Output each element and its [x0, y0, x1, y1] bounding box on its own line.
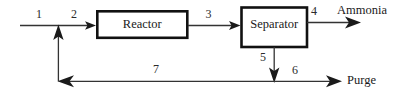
unit-separator[interactable]: Separator: [242, 8, 308, 48]
stream-1-number: 1: [36, 7, 42, 21]
stream-6-number: 6: [292, 63, 298, 77]
stream-7-number: 7: [153, 62, 159, 76]
stream-3-number: 3: [206, 7, 212, 21]
stream-3-path: [188, 21, 241, 30]
stream-4-number: 4: [311, 4, 317, 18]
stream-5-path: [269, 47, 279, 83]
stream-2-number: 2: [71, 7, 77, 21]
stream-2-path: [58, 21, 96, 30]
process-flow-diagram: Reactor Separator: [0, 0, 413, 97]
unit-reactor[interactable]: Reactor: [97, 11, 187, 38]
stream-4-path: [307, 17, 361, 29]
separator-label: Separator: [250, 17, 299, 31]
reactor-label: Reactor: [123, 17, 163, 31]
ammonia-output-label: Ammonia: [337, 3, 387, 17]
purge-output-label: Purge: [347, 73, 376, 87]
stream-6-path: [274, 75, 342, 87]
stream-5-number: 5: [260, 50, 266, 64]
flow-diagram-canvas: Reactor Separator: [0, 0, 413, 97]
